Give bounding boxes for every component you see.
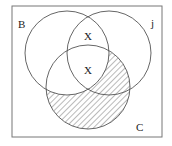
mark-bj: X xyxy=(84,30,92,42)
mark-bjc: X xyxy=(84,64,92,76)
set-j-label: j xyxy=(150,17,154,29)
venn-diagram: B j C X X xyxy=(0,0,172,146)
set-c-label: C xyxy=(136,121,143,133)
set-b-label: B xyxy=(18,18,25,30)
